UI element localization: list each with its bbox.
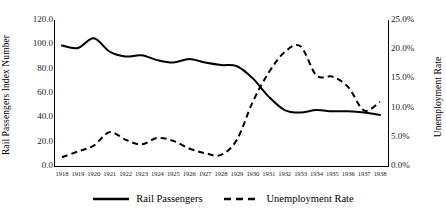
y-axis-left-tick-label: 100.0 (12, 39, 53, 48)
y-axis-left-ticks: 0.020.040.060.080.0100.0120.0 (12, 0, 53, 215)
x-axis-tick-label: 1929 (229, 171, 245, 183)
chart-figure: Rail Passengers Index Number Unemploymen… (0, 0, 446, 215)
y-axis-left-tick-label: 20.0 (12, 137, 53, 146)
x-axis-tick-label: 1922 (118, 171, 134, 183)
x-axis-tick-label: 1925 (165, 171, 181, 183)
x-axis-tick-label: 1932 (277, 171, 293, 183)
x-axis-tick-label: 1923 (134, 171, 150, 183)
legend-label-rail-passengers: Rail Passengers (136, 194, 202, 205)
y-axis-right-tick-label: 15.0% (391, 73, 431, 82)
plot-svg (54, 20, 388, 166)
x-axis-tick-label: 1926 (181, 171, 197, 183)
x-axis-tick-label: 1930 (245, 171, 261, 183)
x-axis-tick-label: 1931 (261, 171, 277, 183)
x-axis-tick-label: 1919 (70, 171, 86, 183)
y-axis-right-tick-label: 0.0% (391, 161, 431, 170)
x-axis-tick-label: 1934 (309, 171, 325, 183)
y-axis-right-tick-label: 10.0% (391, 103, 431, 112)
y-axis-right-title: Unemployment Rate (434, 22, 445, 172)
y-axis-right-line (388, 20, 389, 167)
y-axis-right-tick-label: 5.0% (391, 132, 431, 141)
y-axis-left-tick-label: 0.0 (12, 161, 53, 170)
x-axis-line (54, 166, 388, 167)
x-axis-ticks: 1918191919201921192219231924192519261927… (54, 171, 388, 183)
x-axis-tick-label: 1935 (324, 171, 340, 183)
x-axis-tick-label: 1936 (340, 171, 356, 183)
y-axis-right-ticks: 0.0%5.0%10.0%15.0%20.0%25.0% (391, 0, 431, 215)
x-axis-tick-label: 1937 (356, 171, 372, 183)
legend-item-rail-passengers: Rail Passengers (92, 194, 202, 205)
y-axis-left-tick-label: 60.0 (12, 88, 53, 97)
x-axis-tick-label: 1938 (372, 171, 388, 183)
x-axis-tick-label: 1918 (54, 171, 70, 183)
plot-area (54, 20, 388, 166)
x-axis-tick-label: 1921 (102, 171, 118, 183)
x-axis-tick-label: 1927 (197, 171, 213, 183)
legend-label-unemployment-rate: Unemployment Rate (267, 194, 354, 205)
x-axis-tick-label: 1928 (213, 171, 229, 183)
series-line-unemployment-rate (62, 45, 380, 157)
y-axis-left-tick-label: 80.0 (12, 64, 53, 73)
y-axis-left-tick-label: 40.0 (12, 112, 53, 121)
x-axis-tick-label: 1933 (293, 171, 309, 183)
chart-legend: Rail Passengers Unemployment Rate (0, 190, 446, 208)
y-axis-left-tick-label: 120.0 (12, 15, 53, 24)
y-axis-right-tick-label: 20.0% (391, 44, 431, 53)
legend-item-unemployment-rate: Unemployment Rate (223, 194, 354, 205)
y-axis-right-tick-label: 25.0% (391, 15, 431, 24)
x-axis-tick-label: 1924 (149, 171, 165, 183)
legend-swatch-dashed-icon (223, 194, 261, 204)
x-axis-tick-label: 1920 (86, 171, 102, 183)
legend-swatch-solid-icon (92, 194, 130, 204)
